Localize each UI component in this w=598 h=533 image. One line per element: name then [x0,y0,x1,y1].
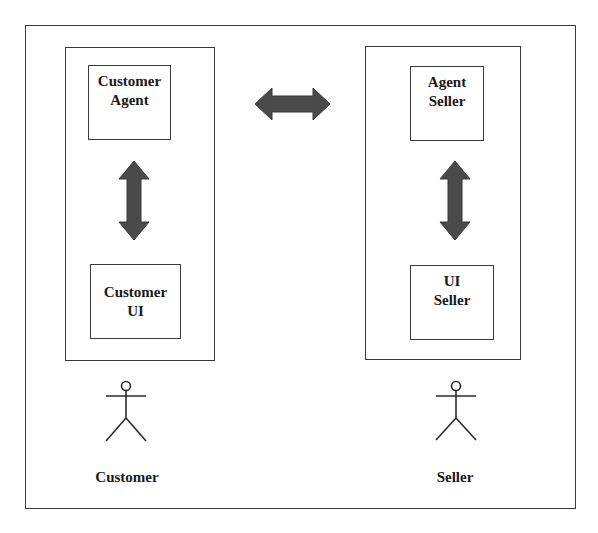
agent-seller-label-line1: Agent [428,73,466,92]
seller-actor-label: Seller [405,469,505,486]
customer-agent-label-line1: Customer [98,72,161,91]
ui-seller-box: UI Seller [410,265,494,340]
customer-ui-label-line1: Customer [104,283,167,302]
agent-seller-label-line2: Seller [429,92,466,111]
customer-agent-label-line2: Agent [110,91,148,110]
ui-seller-label-line2: Seller [434,291,471,310]
customer-actor-label: Customer [77,469,177,486]
customer-ui-label-line2: UI [127,302,144,321]
agent-seller-box: Agent Seller [410,66,484,141]
ui-seller-label-line1: UI [444,272,461,291]
customer-agent-box: Customer Agent [88,65,171,140]
customer-ui-box: Customer UI [90,264,181,339]
